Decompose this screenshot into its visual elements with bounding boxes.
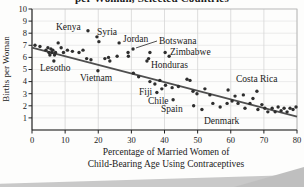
y-tick-label: 8	[23, 28, 27, 38]
data-point	[291, 108, 294, 111]
data-point	[236, 102, 239, 105]
data-point	[191, 90, 194, 93]
country-label: Syria	[97, 27, 118, 37]
data-point	[263, 107, 266, 110]
country-label: Spain	[161, 104, 183, 114]
x-tick-label: 0	[30, 135, 34, 145]
data-point	[164, 84, 167, 87]
x-tick-label: 70	[260, 135, 269, 145]
country-label: Lesotho	[40, 63, 71, 73]
data-point	[160, 87, 163, 90]
y-axis-label: Births per Woman	[1, 36, 11, 102]
x-tick-label: 50	[193, 135, 202, 145]
country-label: Zimbabwe	[170, 47, 211, 57]
y-tick-label: 10	[19, 4, 28, 14]
data-point	[126, 51, 129, 54]
data-point	[243, 107, 246, 110]
data-point	[131, 47, 134, 50]
data-point	[276, 105, 279, 108]
data-point	[81, 48, 84, 51]
data-point	[103, 57, 106, 60]
country-label: Kenya	[56, 22, 82, 32]
data-point	[89, 58, 92, 61]
x-axis-label-line1: Percentage of Married Women of	[103, 147, 231, 157]
y-tick-label: 3	[23, 89, 27, 99]
data-point	[226, 88, 229, 91]
data-point	[108, 59, 111, 62]
x-tick-label: 80	[293, 135, 302, 145]
country-label: Denmark	[204, 116, 240, 126]
data-point	[170, 86, 173, 89]
data-point	[171, 98, 174, 101]
country-label: Honduras	[151, 60, 188, 70]
scatter-plot: 1234567891001020304050607080KenyaSyriaJo…	[0, 0, 304, 187]
x-tick-label: 20	[94, 135, 103, 145]
data-point	[188, 79, 191, 82]
data-point	[51, 48, 54, 51]
country-label: Vietnam	[80, 73, 113, 83]
data-point	[200, 108, 203, 111]
data-point	[66, 48, 69, 51]
country-label: Costa Rica	[236, 74, 278, 84]
data-point	[137, 75, 140, 78]
data-point	[56, 41, 59, 44]
country-label: Botswana	[159, 36, 197, 46]
data-point	[153, 82, 156, 85]
y-tick-label: 2	[23, 101, 27, 111]
y-tick-label: 7	[23, 40, 27, 50]
data-point	[266, 110, 269, 113]
y-tick-label: 9	[23, 16, 27, 26]
data-point	[270, 107, 273, 110]
data-point	[86, 29, 89, 32]
data-point	[158, 79, 161, 82]
x-tick-label: 40	[160, 135, 169, 145]
data-point	[107, 56, 110, 59]
data-point	[54, 51, 57, 54]
data-point	[242, 93, 245, 96]
data-point	[155, 91, 158, 94]
data-point	[233, 94, 236, 97]
data-point	[163, 51, 166, 54]
data-point	[46, 46, 49, 49]
country-label: Jordan	[123, 34, 149, 44]
scatterplot-figure: per Woman, Selected Countries 1234567891…	[0, 0, 304, 187]
data-point	[117, 41, 120, 44]
data-point	[251, 97, 254, 100]
data-point	[288, 107, 291, 110]
x-tick-label: 30	[127, 135, 136, 145]
data-point	[211, 102, 214, 105]
data-point	[248, 102, 251, 105]
data-point	[132, 71, 135, 74]
data-point	[203, 87, 206, 90]
data-point	[115, 54, 118, 57]
x-tick-label: 60	[227, 135, 236, 145]
data-point	[273, 110, 276, 113]
data-point	[230, 99, 233, 102]
data-point	[127, 54, 130, 57]
data-point	[260, 103, 263, 106]
data-point	[148, 51, 151, 54]
data-point	[177, 85, 180, 88]
data-point	[71, 50, 74, 53]
data-point	[185, 77, 188, 80]
data-point	[195, 92, 198, 95]
data-point	[85, 57, 88, 60]
y-tick-label: 4	[23, 76, 28, 86]
data-point	[294, 105, 297, 108]
data-point	[97, 40, 100, 43]
data-point	[256, 108, 259, 111]
data-point	[218, 105, 221, 108]
data-point	[59, 46, 62, 49]
data-point	[285, 110, 288, 113]
x-axis-label-line2: Child-Bearing Age Using Contraceptives	[88, 159, 245, 169]
data-point	[33, 44, 36, 47]
data-point	[38, 45, 41, 48]
data-point	[279, 109, 282, 112]
data-point	[282, 107, 285, 110]
data-point	[77, 51, 80, 54]
data-point	[255, 90, 258, 93]
y-tick-label: 5	[23, 64, 27, 74]
y-tick-label: 6	[23, 52, 27, 62]
data-point	[225, 102, 228, 105]
data-point	[148, 80, 151, 83]
